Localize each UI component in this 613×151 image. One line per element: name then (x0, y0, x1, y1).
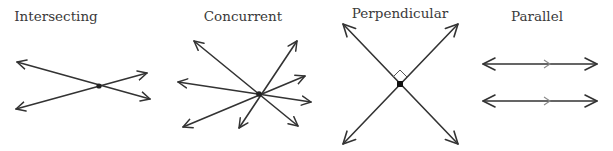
perpendicular-diagram (343, 24, 458, 144)
right-angle-mark (393, 70, 407, 77)
perpendicular-point (397, 81, 403, 87)
intersecting-diagram (16, 62, 150, 109)
concurrent-diagram (178, 41, 311, 128)
intersecting-line-b (16, 73, 147, 109)
concurrent-line-2 (178, 82, 311, 102)
parallel-diagram (483, 60, 597, 105)
lines-diagram-canvas (0, 0, 613, 151)
concurrent-point (256, 91, 262, 97)
intersection-point (96, 83, 101, 88)
concurrent-line-1 (194, 41, 298, 126)
intersecting-line-a (17, 62, 150, 99)
